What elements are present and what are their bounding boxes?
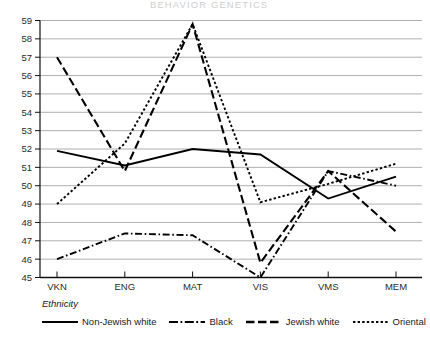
y-tick-label: 45 <box>21 272 32 283</box>
y-tick-label: 59 <box>21 15 32 26</box>
legend-entry: Oriental <box>353 316 426 327</box>
y-tick-label: 56 <box>21 70 32 81</box>
y-tick-label: 51 <box>21 162 32 173</box>
series-line <box>57 24 396 263</box>
legend-label: Jewish white <box>286 316 340 327</box>
chart-legend: Ethnicity Non-Jewish whiteBlackJewish wh… <box>0 296 430 337</box>
figure-container: BEHAVIOR GENETICS 4546474849505152535455… <box>0 0 430 337</box>
y-tick-label: 54 <box>21 107 32 118</box>
line-chart: 454647484950515253545556575859VKNENGMATV… <box>0 0 430 300</box>
y-tick-label: 49 <box>21 198 32 209</box>
x-tick-label: MEM <box>385 281 407 292</box>
legend-entry: Black <box>169 316 232 327</box>
y-tick-label: 48 <box>21 217 32 228</box>
y-tick-label: 57 <box>21 52 32 63</box>
plot-area: 454647484950515253545556575859VKNENGMATV… <box>0 0 430 300</box>
legend-entry: Non-Jewish white <box>42 316 156 327</box>
legend-entries: Non-Jewish whiteBlackJewish whiteOrienta… <box>42 316 430 327</box>
x-tick-label: ENG <box>115 281 136 292</box>
y-tick-label: 52 <box>21 143 32 154</box>
legend-label: Non-Jewish white <box>82 316 156 327</box>
legend-line-swatch <box>246 317 282 327</box>
y-tick-label: 50 <box>21 180 32 191</box>
y-tick-label: 47 <box>21 235 32 246</box>
series-line <box>57 24 396 204</box>
y-tick-label: 58 <box>21 33 32 44</box>
legend-entry: Jewish white <box>246 316 340 327</box>
x-tick-label: VIS <box>253 281 268 292</box>
legend-line-swatch <box>42 317 78 327</box>
y-tick-label: 53 <box>21 125 32 136</box>
legend-label: Oriental <box>393 316 426 327</box>
legend-title: Ethnicity <box>42 298 78 309</box>
x-tick-label: VMS <box>318 281 339 292</box>
legend-label: Black <box>209 316 232 327</box>
legend-line-swatch <box>169 317 205 327</box>
y-tick-label: 55 <box>21 88 32 99</box>
y-tick-label: 46 <box>21 254 32 265</box>
x-tick-label: MAT <box>183 281 203 292</box>
legend-line-swatch <box>353 317 389 327</box>
x-tick-label: VKN <box>47 281 67 292</box>
